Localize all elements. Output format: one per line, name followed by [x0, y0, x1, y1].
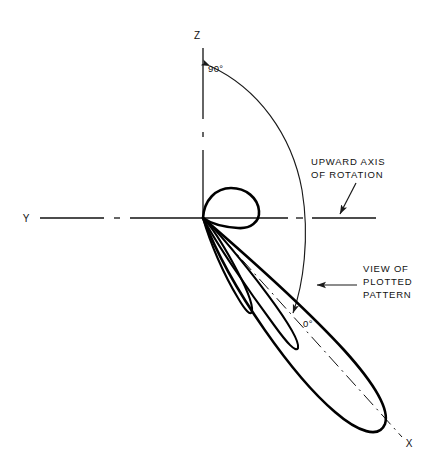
upward-axis-callout-line2: OF ROTATION [311, 169, 383, 180]
x-axis-label: X [406, 438, 413, 449]
diagram-root: Z Y X 90° 0° UPWARD AXIS OF ROTATION VIE… [0, 0, 436, 473]
view-pattern-callout-line2: PLOTTED [363, 276, 412, 287]
y-axis-label: Y [23, 213, 30, 224]
pattern-diagram-figure: Z Y X 90° 0° UPWARD AXIS OF ROTATION VIE… [0, 0, 436, 473]
view-pattern-callout-line1: VIEW OF [363, 263, 409, 274]
z-axis-label: Z [194, 30, 200, 41]
lobe-main-beam [203, 218, 386, 432]
angle-label-90: 90° [208, 63, 224, 74]
upward-axis-leader-line [340, 183, 356, 214]
lobe-upper-back [203, 188, 259, 228]
angle-label-0: 0° [303, 318, 313, 329]
view-pattern-callout-line3: PATTERN [363, 289, 412, 300]
upward-axis-callout-line1: UPWARD AXIS [311, 156, 385, 167]
upward-axis-leader [340, 183, 356, 214]
